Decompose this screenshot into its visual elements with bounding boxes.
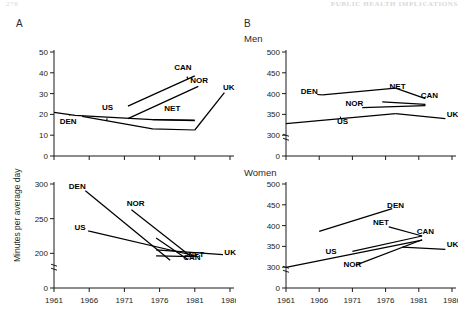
chart-b-men: 0300350400450500DENNETNORCANUSUK xyxy=(252,44,458,166)
x-tick-label: 1971 xyxy=(116,296,134,305)
series-label-can: CAN xyxy=(421,91,439,100)
panel-label-a: A xyxy=(16,18,23,29)
y-tick-label: 0 xyxy=(44,152,49,161)
y-tick-label: 450 xyxy=(267,69,281,78)
y-tick-label: 0 xyxy=(44,284,49,293)
series-label-den: DEN xyxy=(387,201,404,210)
panel-label-b: B xyxy=(244,18,251,29)
series-label-can: CAN xyxy=(417,227,435,236)
chart-b-women: 0300350400450500196119661971197619811986… xyxy=(252,176,458,316)
series-label-can: CAN xyxy=(183,253,201,262)
series-label-can: CAN xyxy=(174,63,192,72)
y-tick-label: 400 xyxy=(267,222,281,231)
series-label-den: DEN xyxy=(69,182,86,191)
series-line-net xyxy=(153,120,195,121)
running-head-title: PUBLIC HEALTH IMPLICATIONS xyxy=(331,0,458,8)
series-label-us: US xyxy=(102,103,114,112)
x-tick-label: 1981 xyxy=(410,296,428,305)
x-tick-label: 1981 xyxy=(186,296,204,305)
series-label-net: NET xyxy=(390,82,406,91)
y-tick-label: 350 xyxy=(267,242,281,251)
x-tick-label: 1966 xyxy=(80,296,98,305)
x-tick-label: 1961 xyxy=(277,296,295,305)
y-axis-label: Minutes per average day xyxy=(12,168,22,262)
y-tick-label: 40 xyxy=(39,69,48,78)
y-tick-label: 30 xyxy=(39,90,48,99)
label-leader-us xyxy=(340,117,341,119)
series-line-den xyxy=(323,88,396,95)
y-tick-label: 250 xyxy=(35,215,49,224)
series-line-can xyxy=(128,76,195,106)
figure-root: 278 PUBLIC HEALTH IMPLICATIONS A B Men W… xyxy=(0,0,464,328)
series-label-net: NET xyxy=(373,218,389,227)
y-tick-label: 300 xyxy=(267,263,281,272)
series-label-net: NET xyxy=(164,104,180,113)
y-tick-label: 350 xyxy=(267,110,281,119)
y-tick-label: 300 xyxy=(267,131,281,140)
series-label-uk: UK xyxy=(224,248,236,257)
series-label-uk: UK xyxy=(447,240,458,249)
series-line-uk xyxy=(402,247,445,249)
x-tick-label: 1961 xyxy=(45,296,63,305)
x-tick-label: 1986 xyxy=(221,296,236,305)
label-leader-can xyxy=(187,77,188,79)
series-label-nor: NOR xyxy=(344,260,362,269)
y-tick-label: 200 xyxy=(35,249,49,258)
series-label-den: DEN xyxy=(60,117,77,126)
running-head: 278 PUBLIC HEALTH IMPLICATIONS xyxy=(0,0,464,10)
series-line-uk xyxy=(195,93,225,130)
x-tick-label: 1976 xyxy=(151,296,169,305)
series-line-can xyxy=(382,102,425,105)
series-line-nor xyxy=(128,86,198,118)
x-tick-label: 1986 xyxy=(443,296,458,305)
y-tick-label: 20 xyxy=(39,110,48,119)
running-head-page: 278 xyxy=(6,0,18,8)
chart-a-top: 01020304050DENUSCANNORNETUK xyxy=(24,44,236,166)
x-tick-label: 1971 xyxy=(344,296,362,305)
y-tick-label: 500 xyxy=(267,48,281,57)
x-tick-label: 1966 xyxy=(310,296,328,305)
chart-a-bottom: 0200250300196119661971197619811986DENUSN… xyxy=(24,176,236,316)
series-label-nor: NOR xyxy=(127,199,145,208)
series-label-nor: NOR xyxy=(190,76,208,85)
y-tick-label: 400 xyxy=(267,90,281,99)
panel-title-men: Men xyxy=(244,33,262,44)
y-tick-label: 0 xyxy=(276,152,281,161)
series-line-nor xyxy=(362,106,425,108)
y-tick-label: 300 xyxy=(35,180,49,189)
y-tick-label: 10 xyxy=(39,131,48,140)
series-label-uk: UK xyxy=(447,110,458,119)
y-tick-label: 450 xyxy=(267,201,281,210)
series-label-nor: NOR xyxy=(346,99,364,108)
series-line-uk xyxy=(396,114,446,119)
y-tick-label: 500 xyxy=(267,180,281,189)
series-label-uk: UK xyxy=(223,83,235,92)
series-label-us: US xyxy=(326,247,338,256)
x-tick-label: 1976 xyxy=(377,296,395,305)
series-label-den: DEN xyxy=(301,87,318,96)
series-label-us: US xyxy=(337,117,349,126)
y-tick-label: 50 xyxy=(39,48,48,57)
y-tick-label: 0 xyxy=(276,284,281,293)
series-label-us: US xyxy=(74,223,86,232)
